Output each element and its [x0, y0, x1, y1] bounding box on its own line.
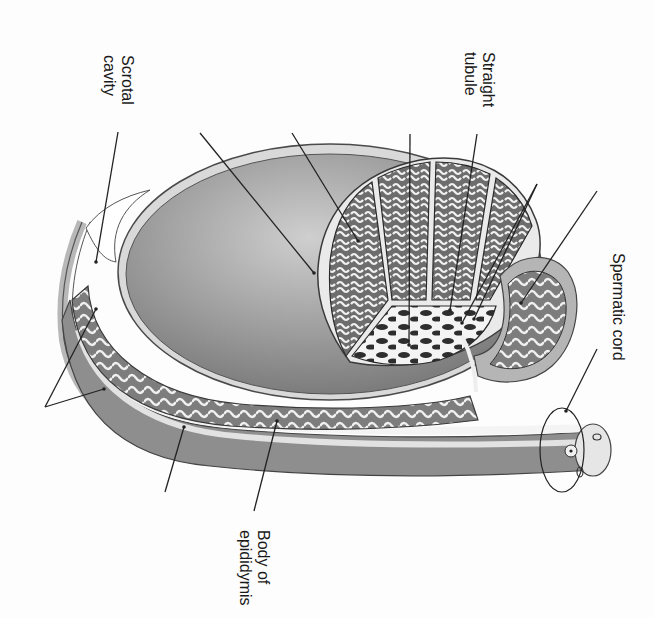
leader-endpoint	[102, 387, 106, 391]
spermatic-cord-leader	[566, 349, 597, 411]
leader-endpoint	[448, 308, 452, 312]
label-line: tubule	[461, 52, 479, 107]
leader-endpoint	[407, 343, 411, 347]
testis-illustration	[0, 0, 654, 618]
leader-endpoint	[472, 317, 476, 321]
leader-endpoint	[182, 425, 186, 429]
leader-endpoint	[275, 419, 279, 423]
label-line: Straight	[479, 52, 497, 107]
label-straight-tubule: Straight tubule	[461, 52, 497, 107]
label-line: Scrotal	[118, 55, 136, 105]
label-line: Body of	[254, 530, 272, 606]
label-body-of-epididymis: Body of epididymis	[236, 530, 272, 606]
leader-endpoint	[356, 239, 360, 243]
label-line: Spermatic cord	[609, 253, 627, 361]
leader-endpoint	[312, 271, 316, 275]
label-scrotal-cavity: Scrotal cavity	[100, 55, 136, 105]
label-line: epididymis	[236, 530, 254, 606]
label-line: cavity	[100, 55, 118, 105]
label-spermatic-cord: Spermatic cord	[609, 253, 627, 361]
leader-endpoint	[460, 321, 464, 325]
leader-endpoint	[519, 301, 523, 305]
leader-endpoint	[94, 307, 98, 311]
diagram-canvas: Scrotal cavity Straight tubule Spermatic…	[0, 0, 654, 618]
leader-endpoint	[564, 409, 568, 413]
leader-endpoint	[94, 260, 98, 264]
